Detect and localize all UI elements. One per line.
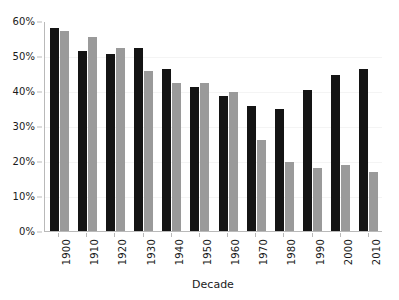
x-axis: 1900191019201930194019501960197019801990… [44, 233, 382, 279]
x-tick-mark [58, 233, 59, 237]
bar [200, 83, 209, 231]
bar [219, 96, 228, 231]
bar [190, 87, 199, 231]
x-tick-mark [340, 233, 341, 237]
bar-group [78, 22, 97, 231]
y-tick-label: 30% [12, 122, 35, 132]
bar [257, 140, 266, 231]
bar [359, 69, 368, 231]
x-tick-label: 1960 [231, 239, 241, 265]
bar [285, 162, 294, 231]
x-tick-label: 1970 [259, 239, 269, 265]
x-tick-label: 2000 [344, 239, 354, 265]
x-tick-mark [199, 233, 200, 237]
bar-group [247, 22, 266, 231]
bar [172, 83, 181, 231]
bar-group [190, 22, 209, 231]
x-tick-mark [143, 233, 144, 237]
bar [50, 28, 59, 231]
bar [331, 75, 340, 231]
y-tick-mark [37, 232, 42, 233]
y-tick-mark [37, 197, 42, 198]
bar [78, 51, 87, 231]
plot-area [44, 22, 382, 232]
bar-group [359, 22, 378, 231]
bar-group [134, 22, 153, 231]
bar-chart: 0%10%20%30%40%50%60% 1900191019201930194… [0, 0, 399, 300]
bar [313, 168, 322, 231]
bar [88, 37, 97, 231]
bar [247, 106, 256, 231]
x-tick-label: 1930 [147, 239, 157, 265]
x-tick-label: 1990 [316, 239, 326, 265]
bar-group [331, 22, 350, 231]
y-tick-mark [37, 57, 42, 58]
y-tick-mark [37, 127, 42, 128]
y-tick-mark [37, 22, 42, 23]
bar [144, 71, 153, 231]
bar [60, 31, 69, 231]
y-tick-mark [37, 92, 42, 93]
bars-layer [45, 22, 382, 231]
x-tick-mark [86, 233, 87, 237]
bar-group [50, 22, 69, 231]
x-tick-mark [283, 233, 284, 237]
x-tick-label: 1950 [203, 239, 213, 265]
bar [341, 165, 350, 231]
y-tick-label: 20% [12, 157, 35, 167]
bar [134, 48, 143, 231]
bar [106, 54, 115, 231]
x-tick-mark [227, 233, 228, 237]
bar [369, 172, 378, 232]
x-tick-label: 1940 [175, 239, 185, 265]
x-tick-label: 1900 [62, 239, 72, 265]
bar-group [303, 22, 322, 231]
x-tick-label: 1980 [287, 239, 297, 265]
y-tick-label: 50% [12, 52, 35, 62]
x-tick-mark [312, 233, 313, 237]
x-tick-mark [255, 233, 256, 237]
x-tick-label: 2010 [372, 239, 382, 265]
bar [162, 69, 171, 231]
bar-group [162, 22, 181, 231]
x-tick-mark [368, 233, 369, 237]
y-tick-label: 60% [12, 17, 35, 27]
y-tick-label: 40% [12, 87, 35, 97]
y-tick-label: 0% [19, 227, 35, 237]
x-tick-label: 1910 [90, 239, 100, 265]
x-axis-title: Decade [44, 279, 382, 290]
bar-group [275, 22, 294, 231]
bar [116, 48, 125, 231]
y-tick-label: 10% [12, 192, 35, 202]
x-tick-label: 1920 [118, 239, 128, 265]
bar [275, 109, 284, 231]
y-tick-mark [37, 162, 42, 163]
x-tick-mark [114, 233, 115, 237]
x-tick-mark [171, 233, 172, 237]
bar-group [219, 22, 238, 231]
bar [229, 92, 238, 231]
bar [303, 90, 312, 231]
bar-group [106, 22, 125, 231]
y-axis: 0%10%20%30%40%50%60% [0, 0, 44, 300]
